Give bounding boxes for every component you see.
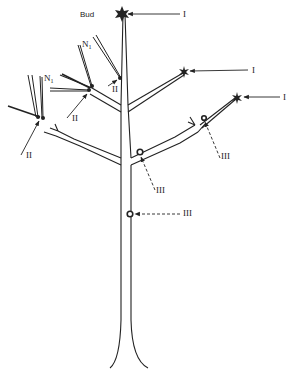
arrow-III-branch [205,122,220,158]
label-III-branch: III [221,151,230,161]
label-n1-mid: N1 [82,39,92,50]
branch-lower-right-tip [200,98,235,125]
knot-left-1 [36,115,40,119]
n1-mid-shoot-1 [78,45,91,86]
branch-lower-right-bottom [131,132,198,165]
label-II-left: II [26,150,32,160]
dormant-bud-fork [137,149,143,155]
branch-lower-right-tip-2 [202,99,236,128]
branch-lower-left-top [58,131,121,158]
branch-upper-left-bottom [90,94,121,112]
label-I-upper-right: I [252,65,255,75]
branch-upper-right-bottom [128,75,184,112]
dormant-buds [127,116,206,217]
knot-left-2 [41,116,45,120]
n1-mid-shoot-2 [80,45,92,86]
bud-star-upper-right [179,66,189,78]
terminal-buds [36,6,242,120]
label-III-fork: III [156,185,165,195]
tree-outline [44,14,236,368]
knot-mid-2 [90,84,94,88]
branch-lower-left-fork [44,124,58,136]
tree-bud-diagram: Bud I I I II II II III III III N1 N1 [0,0,296,378]
mid-whip-shoot [62,74,90,88]
leader-right-edge [125,14,131,158]
label-III-trunk: III [183,208,192,218]
upper-side-shoot-1 [93,37,120,78]
dormant-bud-trunk [127,211,133,217]
label-II-mid: II [72,113,78,123]
label-bud: Bud [80,10,94,19]
mid-horizontal-shoot-1 [50,88,89,90]
arrow-III-fork [141,157,155,190]
knot-upper [118,76,122,80]
pointer-arrows [21,14,280,214]
label-II-upper: II [112,84,118,94]
trunk-left-edge [110,158,121,368]
branch-lower-left-bottom [56,136,121,165]
trunk-right-edge [131,165,148,368]
leader-left-edge [121,14,123,158]
bud-star-right [232,92,242,104]
arrow-I-upper-right [190,70,248,71]
knot-mid-1 [87,88,91,92]
branch-upper-right-top [128,73,183,105]
bud-star-top [115,6,129,22]
label-I-top: I [183,9,186,19]
upper-side-shoot-2 [96,35,121,78]
label-I-right: I [283,92,286,102]
label-n1-left: N1 [44,73,54,84]
dormant-bud-branch-right [202,116,207,121]
